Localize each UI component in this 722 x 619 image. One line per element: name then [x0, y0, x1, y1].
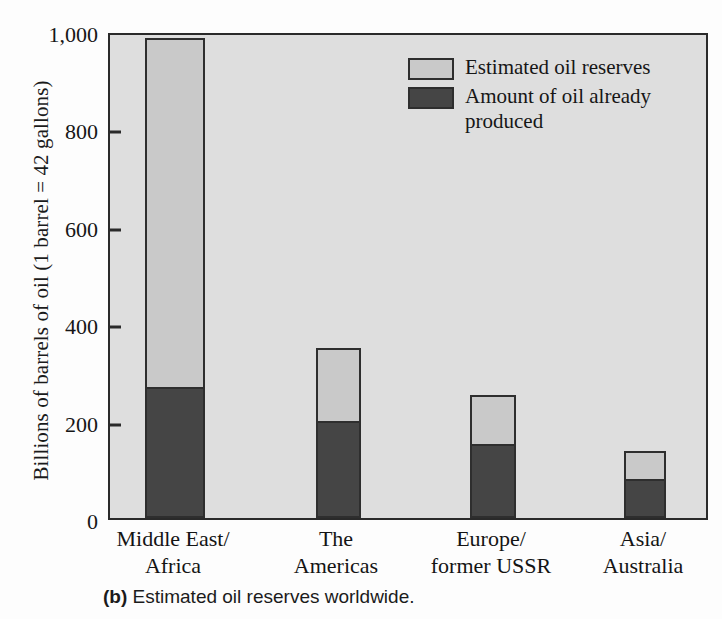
legend-item: Estimated oil reserves [408, 55, 708, 80]
x-axis-label-line: Asia/ [528, 525, 722, 552]
y-axis-title: Billions of barrels of oil (1 barrel = 4… [29, 31, 54, 531]
plot-area: 02004006008001,000 Estimated oil reserve… [108, 33, 708, 520]
bar-segment-produced [316, 421, 361, 518]
legend-swatch-already-produced [408, 87, 454, 109]
y-tick-label: 200 [65, 412, 98, 438]
bar-2 [316, 348, 361, 518]
caption-tag: (b) [103, 586, 127, 607]
legend-item: Amount of oil already produced [408, 84, 708, 134]
bar-segment-produced [624, 479, 666, 518]
figure-caption: (b) Estimated oil reserves worldwide. [103, 586, 415, 608]
y-tick-mark [110, 228, 121, 231]
y-tick-mark [110, 131, 121, 134]
bar-segment-produced [145, 387, 205, 518]
x-axis-label-line: Australia [528, 552, 722, 579]
chart-legend: Estimated oil reserves Amount of oil alr… [408, 55, 708, 138]
bar-4 [624, 451, 666, 518]
bar-1 [145, 38, 205, 518]
y-tick-mark [110, 326, 121, 329]
bar-3 [470, 395, 516, 518]
y-tick-label: 600 [65, 217, 98, 243]
y-tick-label: 1,000 [49, 22, 99, 48]
x-axis-label-4: Asia/Australia [528, 525, 722, 579]
legend-swatch-estimated-reserves [408, 58, 454, 80]
legend-label-estimated-reserves: Estimated oil reserves [465, 55, 650, 80]
bar-segment-produced [470, 444, 516, 518]
legend-label-already-produced: Amount of oil already produced [465, 84, 708, 134]
y-tick-label: 400 [65, 314, 98, 340]
y-tick-mark [110, 423, 121, 426]
caption-text: Estimated oil reserves worldwide. [133, 586, 415, 607]
figure-container: Billions of barrels of oil (1 barrel = 4… [0, 0, 722, 619]
y-tick-label: 800 [65, 119, 98, 145]
